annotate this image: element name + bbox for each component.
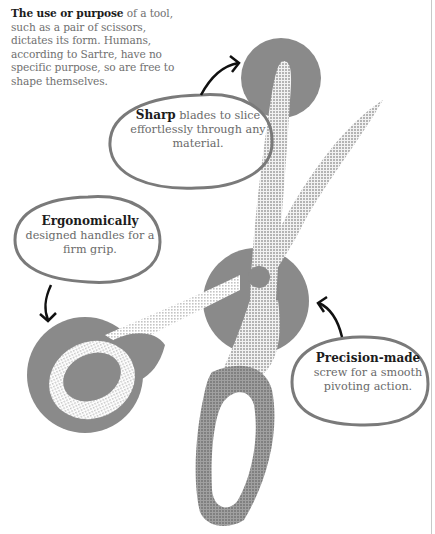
- callout-ergonomic-text: designed handles for a firm grip.: [26, 229, 155, 256]
- page-edge-divider: [431, 0, 432, 534]
- intro-caption-bold: The use or purpose: [11, 7, 124, 19]
- callout-ergonomic-bold: Ergonomically: [41, 214, 138, 228]
- callout-ergonomic-handles: Ergonomically designed handles for a fir…: [20, 214, 160, 257]
- right-handle: [196, 366, 275, 526]
- arrow-to-blade-tip: [201, 63, 238, 95]
- arrow-to-handle: [45, 285, 51, 320]
- pivot-screw: [248, 266, 270, 288]
- callout-sharp-bold: Sharp: [136, 108, 176, 122]
- callout-precision-bold: Precision-made: [316, 351, 420, 365]
- callout-precision-text: screw for a smooth pivoting action.: [314, 366, 423, 393]
- callout-sharp-blades: Sharp blades to slice effortlessly throu…: [128, 108, 268, 151]
- callout-precision-screw: Precision-made screw for a smooth pivoti…: [298, 351, 435, 394]
- intro-caption: The use or purpose of a tool, such as a …: [11, 7, 186, 89]
